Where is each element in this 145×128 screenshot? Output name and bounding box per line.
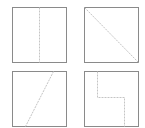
panel-step-split bbox=[85, 72, 139, 127]
panel-diagonal-split bbox=[85, 8, 139, 63]
panel-slanted-split bbox=[13, 72, 67, 127]
panel-border bbox=[85, 72, 139, 127]
split-diagram bbox=[0, 0, 145, 128]
panel-border bbox=[85, 8, 139, 63]
panel-vertical-split bbox=[13, 8, 67, 63]
